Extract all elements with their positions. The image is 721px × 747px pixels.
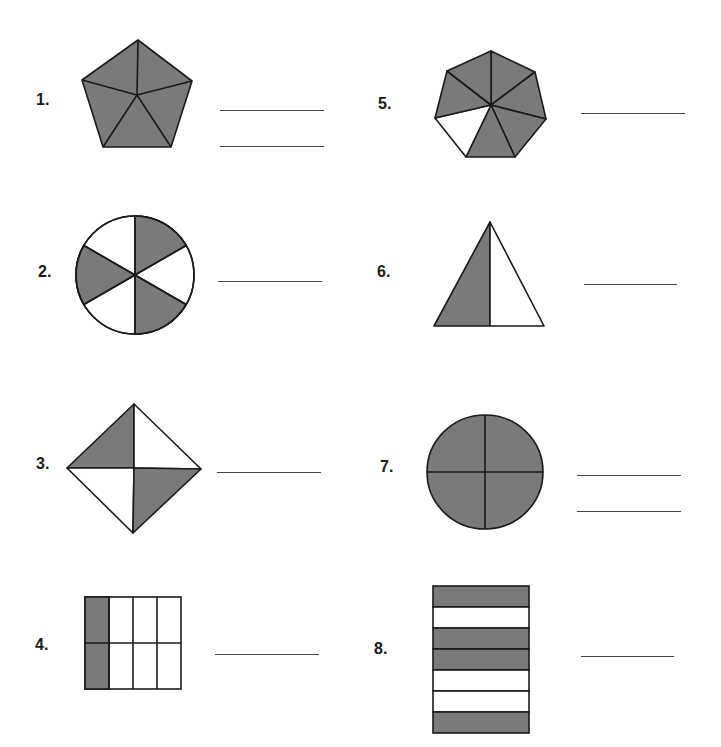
problem-3-answer-line[interactable] bbox=[217, 472, 321, 473]
problem-3-number: 3. bbox=[36, 455, 49, 473]
problem-1-answer-line-denominator[interactable] bbox=[220, 146, 324, 147]
problem-4-answer-line[interactable] bbox=[215, 654, 319, 655]
problem-7-answer-line-denominator[interactable] bbox=[577, 511, 681, 512]
problem-8-answer-line[interactable] bbox=[581, 656, 674, 657]
problem-2-number: 2. bbox=[38, 263, 51, 281]
problem-2-answer-line[interactable] bbox=[218, 281, 322, 282]
problem-6-number: 6. bbox=[377, 263, 390, 281]
problem-8-number: 8. bbox=[374, 640, 387, 658]
problem-6-answer-line[interactable] bbox=[584, 284, 677, 285]
problem-5-answer-line[interactable] bbox=[581, 113, 685, 114]
problem-1-number: 1. bbox=[36, 91, 49, 109]
problem-7-answer-line-numerator[interactable] bbox=[577, 475, 681, 476]
problem-5-number: 5. bbox=[378, 95, 391, 113]
problem-7-number: 7. bbox=[380, 458, 393, 476]
problem-4-number: 4. bbox=[35, 636, 48, 654]
problem-1-answer-line-numerator[interactable] bbox=[220, 110, 324, 111]
